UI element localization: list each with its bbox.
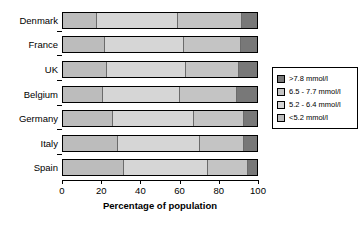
legend-swatch-icon — [277, 114, 285, 122]
x-axis-tick — [62, 180, 63, 184]
legend-label: <5.2 mmol/l — [289, 114, 328, 122]
legend-swatch-icon — [277, 88, 285, 96]
bar-segment — [199, 136, 244, 151]
bar-segment — [185, 62, 237, 77]
bar-segment — [63, 136, 117, 151]
bar-segment — [236, 87, 257, 102]
bar-row — [62, 159, 258, 176]
legend-item: 6.5 - 7.7 mmol/l — [277, 85, 354, 98]
bar-segment — [96, 13, 177, 28]
row-tick-mark — [57, 129, 62, 130]
category-axis-labels: DenmarkFranceUKBelgiumGermanyItalySpain — [0, 8, 58, 180]
bar-segment — [112, 111, 193, 126]
bar-segment — [63, 111, 112, 126]
bar-segment — [241, 13, 257, 28]
stacked-bar-chart: DenmarkFranceUKBelgiumGermanyItalySpain … — [0, 0, 364, 227]
bar-segment — [123, 160, 206, 175]
x-axis-tick — [180, 180, 181, 184]
bar-segment — [117, 136, 198, 151]
category-label: Belgium — [0, 86, 58, 103]
bar-segment — [102, 87, 180, 102]
category-label: Spain — [0, 159, 58, 176]
bar-segment — [240, 37, 257, 52]
legend-swatch-icon — [277, 75, 285, 83]
x-axis-tick — [140, 180, 141, 184]
legend-item: <5.2 mmol/l — [277, 111, 354, 124]
bar-segment — [63, 87, 102, 102]
x-axis-tick-label: 80 — [214, 185, 225, 196]
bar-segment — [104, 37, 184, 52]
x-axis-title: Percentage of population — [62, 200, 258, 211]
x-axis-tick — [258, 180, 259, 184]
category-label: Italy — [0, 135, 58, 152]
bar-row — [62, 12, 258, 29]
x-axis-line — [62, 180, 258, 181]
bar-segment — [179, 87, 235, 102]
bar-segment — [177, 13, 241, 28]
bar-segment — [63, 160, 123, 175]
x-axis-tick — [101, 180, 102, 184]
row-tick-mark — [57, 80, 62, 81]
bar-segment — [63, 37, 104, 52]
category-label: UK — [0, 61, 58, 78]
x-axis-tick-label: 60 — [174, 185, 185, 196]
legend-swatch-icon — [277, 101, 285, 109]
bar-row — [62, 86, 258, 103]
legend-item: 5.2 - 6.4 mmol/l — [277, 98, 354, 111]
x-axis-tick-label: 20 — [96, 185, 107, 196]
x-axis-tick — [219, 180, 220, 184]
bar-segment — [63, 13, 96, 28]
chart-legend: >7.8 mmol/l6.5 - 7.7 mmol/l5.2 - 6.4 mmo… — [272, 67, 358, 129]
row-tick-mark — [57, 105, 62, 106]
bar-segment — [106, 62, 186, 77]
legend-item: >7.8 mmol/l — [277, 72, 354, 85]
bar-segment — [238, 62, 257, 77]
category-label: Denmark — [0, 12, 58, 29]
bar-segment — [183, 37, 239, 52]
x-axis-tick-label: 0 — [59, 185, 64, 196]
bar-row — [62, 135, 258, 152]
x-axis-tick-label: 100 — [250, 185, 266, 196]
row-tick-mark — [57, 31, 62, 32]
bar-row — [62, 110, 258, 127]
x-axis-tick-label: 40 — [135, 185, 146, 196]
bar-segment — [243, 136, 257, 151]
category-label: France — [0, 36, 58, 53]
row-tick-mark — [57, 154, 62, 155]
bar-segment — [247, 160, 257, 175]
bar-segment — [207, 160, 248, 175]
row-tick-mark — [57, 55, 62, 56]
bar-segment — [63, 62, 106, 77]
legend-label: 5.2 - 6.4 mmol/l — [289, 101, 341, 109]
bar-row — [62, 61, 258, 78]
bar-segment — [243, 111, 257, 126]
category-label: Germany — [0, 110, 58, 127]
plot-area — [62, 8, 258, 180]
legend-label: 6.5 - 7.7 mmol/l — [289, 88, 341, 96]
legend-label: >7.8 mmol/l — [289, 75, 328, 83]
bar-segment — [193, 111, 243, 126]
bar-row — [62, 36, 258, 53]
